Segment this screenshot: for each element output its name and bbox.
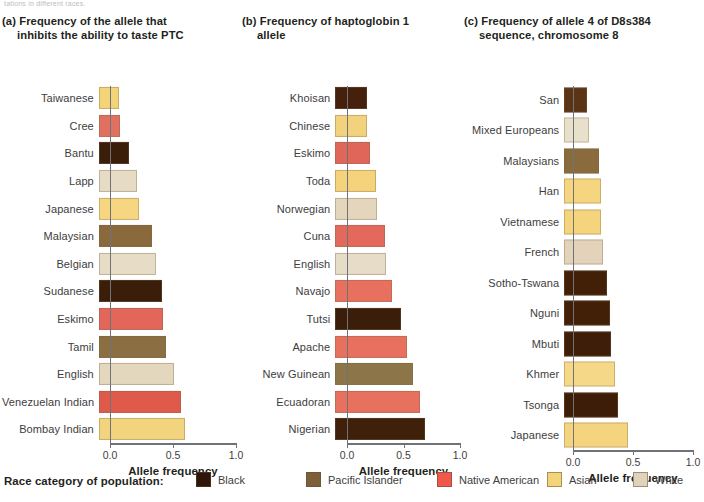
bar-asian [99, 198, 139, 220]
bar-row-label: English [2, 368, 99, 380]
bar-track [335, 388, 464, 416]
bar-row-label: Japanese [2, 203, 99, 215]
bar-row-label: Nigerian [242, 423, 335, 435]
bar-track [335, 250, 464, 278]
bar-pacific-islander [99, 225, 152, 247]
figure-root: tations in different races. (a) Frequenc… [0, 0, 704, 502]
bar-white [335, 253, 386, 275]
bar-track [564, 420, 704, 451]
bar-row-label: Cree [2, 120, 99, 132]
bar-row-label: Tutsi [242, 313, 335, 325]
bar-row-label: New Guinean [242, 368, 335, 380]
bar-row: Japanese [464, 420, 704, 451]
bar-row: Bombay Indian [2, 416, 240, 444]
bar-row: Cuna [242, 222, 464, 250]
bar-row-label: Eskimo [242, 147, 335, 159]
bar-row: Tamil [2, 333, 240, 361]
bar-track [335, 416, 464, 444]
panel-c-title-line1: Frequency of allele 4 of D8s384 [481, 15, 651, 27]
bar-track [99, 84, 240, 112]
legend-swatch-white [633, 472, 648, 487]
bar-row: Sudanese [2, 278, 240, 306]
panel-c-rows: SanMixed EuropeansMalaysiansHanVietnames… [464, 42, 704, 450]
bar-row-label: Navajo [242, 285, 335, 297]
bar-row: Ecuadoran [242, 388, 464, 416]
bar-track [99, 195, 240, 223]
bar-row: Tutsi [242, 305, 464, 333]
x-tick [173, 443, 174, 448]
bar-track [335, 333, 464, 361]
legend-swatch-asian [547, 472, 562, 487]
bar-row: Chinese [242, 112, 464, 140]
x-tick [404, 443, 405, 448]
bar-row: Cree [2, 112, 240, 140]
bar-row-label: Japanese [464, 429, 564, 441]
panel-a-rows: TaiwaneseCreeBantuLappJapaneseMalaysianB… [2, 42, 240, 443]
legend-swatch-native-american [437, 472, 452, 487]
panel-a-tag: (a) [2, 15, 16, 27]
bar-row: Sotho-Tswana [464, 267, 704, 298]
bar-row: Mixed Europeans [464, 115, 704, 146]
bar-asian [564, 362, 614, 387]
legend-item-white: White [633, 472, 683, 487]
bar-row: Bantu [2, 140, 240, 168]
legend-label-black: Black [218, 474, 245, 486]
bar-track [99, 222, 240, 250]
bar-row: Toda [242, 167, 464, 195]
bar-black [335, 418, 424, 440]
bar-row-label: Taiwanese [2, 92, 99, 104]
bar-row: Lapp [2, 167, 240, 195]
bar-track [99, 416, 240, 444]
legend-title: Race category of population: [4, 475, 164, 487]
bar-track [99, 112, 240, 140]
bar-native-american [335, 336, 406, 358]
panel-c-title: (c) Frequency of allele 4 of D8s384 sequ… [464, 14, 704, 42]
panel-b-title-line1: Frequency of haptoglobin 1 [260, 15, 409, 27]
bar-track [564, 237, 704, 268]
panel-a: (a) Frequency of the allele that inhibit… [2, 14, 240, 464]
bar-asian [564, 209, 601, 234]
bar-white [99, 253, 156, 275]
bar-black [564, 87, 587, 112]
bar-white [564, 118, 589, 143]
bar-asian [335, 115, 367, 137]
bar-native-american [99, 308, 163, 330]
bar-track [99, 333, 240, 361]
bar-track [335, 195, 464, 223]
bar-row-label: Tamil [2, 341, 99, 353]
bar-native-american [335, 142, 370, 164]
bar-row: Taiwanese [2, 84, 240, 112]
bar-black [564, 331, 611, 356]
bar-row-label: Norwegian [242, 203, 335, 215]
panel-b-tag: (b) [242, 15, 257, 27]
panel-c-plot: SanMixed EuropeansMalaysiansHanVietnames… [464, 42, 704, 450]
bar-row-label: Chinese [242, 120, 335, 132]
bar-row-label: Lapp [2, 175, 99, 187]
x-tick-label: 0.0 [340, 449, 355, 461]
bar-row: French [464, 237, 704, 268]
bar-row-label: Toda [242, 175, 335, 187]
bar-track [99, 140, 240, 168]
legend-item-asian: Asian [547, 472, 597, 487]
x-tick [460, 443, 461, 448]
panel-c-title-line2: sequence, chromosome 8 [464, 28, 704, 42]
bar-row: San [464, 84, 704, 115]
panel-a-plot: TaiwaneseCreeBantuLappJapaneseMalaysianB… [2, 42, 240, 443]
bar-row-label: Cuna [242, 230, 335, 242]
panel-b-plot: KhoisanChineseEskimoTodaNorwegianCunaEng… [242, 42, 464, 443]
legend-item-pacific-islander: Pacific Islander [306, 472, 403, 487]
legend-label-pacific-islander: Pacific Islander [328, 474, 403, 486]
clipped-caption-sliver: tations in different races. [4, 0, 274, 7]
bar-track [99, 305, 240, 333]
bar-row-label: Khoisan [242, 92, 335, 104]
x-tick-label: 0.5 [396, 449, 411, 461]
legend-swatch-black [196, 472, 211, 487]
bar-pacific-islander [99, 336, 166, 358]
bar-row-label: Venezuelan Indian [2, 396, 99, 408]
bar-track [564, 206, 704, 237]
legend-label-white: White [655, 474, 683, 486]
legend-label-asian: Asian [569, 474, 597, 486]
bar-white [99, 170, 137, 192]
bar-row-label: Mbuti [464, 338, 564, 350]
bar-row-label: San [464, 94, 564, 106]
